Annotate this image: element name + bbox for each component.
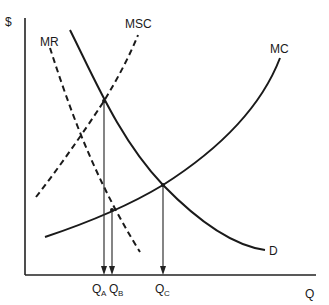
qc-subscript: C [164,289,170,298]
mc-label: MC [270,42,289,56]
qa-label: Q [92,282,101,296]
msc-d-intersection [102,99,106,103]
qb-label: Q [109,282,118,296]
mr-mc-intersection [110,208,114,212]
marginal-revenue-curve [50,48,140,252]
msc-label: MSC [125,17,152,31]
diagram-svg: $ Q D MR MSC MC Q A Q B Q C [0,0,329,305]
mr-label: MR [40,35,59,49]
qa-subscript: A [101,289,107,298]
qc-arrow-icon [160,266,166,275]
x-axis-label: Q [305,287,314,301]
mc-d-intersection [161,183,165,187]
demand-label: D [269,244,278,258]
qa-arrow-icon [101,266,107,275]
qb-subscript: B [118,289,123,298]
qc-label: Q [155,282,164,296]
economics-diagram: $ Q D MR MSC MC Q A Q B Q C [0,0,329,305]
qb-arrow-icon [109,266,115,275]
marginal-social-cost-curve [36,35,138,197]
y-axis-label: $ [5,15,12,29]
